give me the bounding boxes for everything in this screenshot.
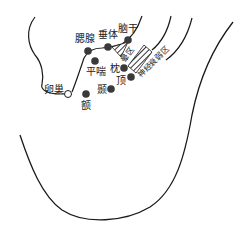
point-e — [82, 90, 90, 98]
point-saixian — [84, 47, 92, 55]
label-zhen: 枕 — [110, 62, 120, 74]
point-nie — [107, 85, 115, 93]
label-pingchuan: 平喘 — [86, 65, 106, 77]
label-saixian: 腮腺 — [75, 32, 95, 44]
label-naogan: 脑干 — [118, 22, 138, 34]
concha-curve-2 — [166, 18, 192, 60]
antitragus-outline — [29, 17, 64, 94]
point-zhen — [120, 64, 128, 72]
point-naogan — [124, 36, 132, 44]
label-e: 额 — [81, 99, 91, 111]
ear-acupoint-diagram: 腮腺 垂体 脑干 平喘 枕 顶 颞 额 卵巢 晕区 神经衰弱区 — [0, 0, 249, 240]
point-ding — [127, 73, 135, 81]
label-ding: 顶 — [116, 75, 126, 86]
concha-curve-1 — [152, 16, 171, 50]
point-chuiti — [104, 43, 112, 51]
label-chuiti: 垂体 — [98, 29, 118, 40]
label-luanchao: 卵巢 — [44, 83, 64, 95]
point-luanchao — [65, 91, 72, 98]
point-pingchuan — [91, 57, 99, 65]
label-nie: 颞 — [97, 84, 107, 95]
